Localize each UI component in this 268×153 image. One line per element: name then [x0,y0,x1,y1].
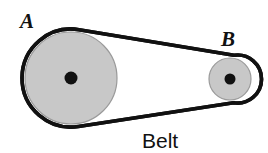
pulley-b-label: B [220,27,235,51]
pulley-a-hub-dot [65,72,78,85]
belt-pulley-diagram: A B Belt [0,0,268,153]
pulley-a [25,32,117,124]
pulley-b [209,58,251,100]
pulley-a-label: A [18,9,34,33]
diagram-canvas: A B Belt [0,0,268,153]
pulley-b-hub-dot [225,74,236,85]
belt-label: Belt [142,129,178,152]
